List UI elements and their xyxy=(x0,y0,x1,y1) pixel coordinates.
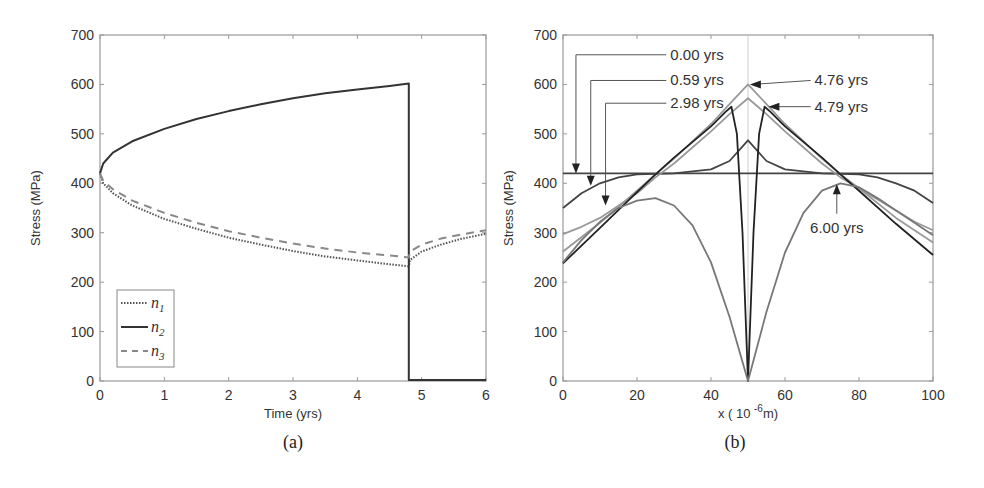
y-tick-label: 100 xyxy=(534,324,558,340)
annotation-label: 2.98 yrs xyxy=(670,94,723,111)
x-tick-label: 1 xyxy=(160,387,168,403)
legend-box xyxy=(117,290,174,367)
y-axis-title-a: Stress (MPa) xyxy=(28,170,43,246)
x-tick-label: 100 xyxy=(921,387,945,403)
chart-b: 0204060801000100200300400500600700 0.00 … xyxy=(501,27,945,453)
x-tick-label: 0 xyxy=(559,387,567,403)
x-axis-title-b: x ( 10 -6m) xyxy=(718,403,778,421)
y-tick-label: 200 xyxy=(534,274,558,290)
y-tick-label: 500 xyxy=(534,126,558,142)
y-tick-label: 400 xyxy=(534,175,558,191)
x-tick-label: 60 xyxy=(777,387,793,403)
x-axis-title-a: Time (yrs) xyxy=(264,406,322,421)
y-tick-label: 300 xyxy=(71,225,95,241)
y-tick-label: 100 xyxy=(71,324,95,340)
y-tick-label: 200 xyxy=(71,274,95,290)
axis-ticks-b: 0204060801000100200300400500600700 xyxy=(534,27,945,403)
x-tick-label: 5 xyxy=(418,387,426,403)
series-line xyxy=(100,173,486,257)
x-tick-label: 2 xyxy=(225,387,233,403)
annotation-label: 6.00 yrs xyxy=(810,219,863,236)
y-tick-label: 700 xyxy=(534,27,558,43)
y-axis-title-b: Stress (MPa) xyxy=(501,170,516,246)
y-tick-label: 400 xyxy=(71,175,95,191)
arrow-head-icon xyxy=(602,196,610,206)
y-tick-label: 500 xyxy=(71,126,95,142)
annotation-label: 0.00 yrs xyxy=(670,46,723,63)
x-tick-label: 3 xyxy=(289,387,297,403)
annotation-leader xyxy=(591,80,667,183)
caption-b: (b) xyxy=(725,432,746,453)
x-tick-label: 40 xyxy=(703,387,719,403)
series-line xyxy=(100,173,486,266)
y-tick-label: 600 xyxy=(71,76,95,92)
annotation-leader xyxy=(606,103,667,203)
arrow-head-icon xyxy=(587,176,595,186)
y-tick-label: 0 xyxy=(549,373,557,389)
x-tick-label: 6 xyxy=(482,387,490,403)
x-tick-label: 20 xyxy=(629,387,645,403)
annotation-leader xyxy=(576,55,666,172)
annotation-label: 4.76 yrs xyxy=(815,71,868,88)
y-tick-label: 600 xyxy=(534,76,558,92)
x-tick-label: 4 xyxy=(353,387,361,403)
legend-a: n1n2n3 xyxy=(117,290,174,367)
arrow-head-icon xyxy=(768,103,779,111)
figure: 01234560100200300400500600700 n1n2n3 Str… xyxy=(0,0,984,488)
series-group-b xyxy=(563,35,933,381)
chart-a: 01234560100200300400500600700 n1n2n3 Str… xyxy=(28,27,490,453)
caption-a: (a) xyxy=(283,432,303,453)
annotation-label: 4.79 yrs xyxy=(815,98,868,115)
y-tick-label: 700 xyxy=(71,27,95,43)
y-tick-label: 300 xyxy=(534,225,558,241)
y-tick-label: 0 xyxy=(86,373,94,389)
arrow-head-icon xyxy=(572,163,580,173)
x-tick-label: 0 xyxy=(96,387,104,403)
x-tick-label: 80 xyxy=(851,387,867,403)
annotation-label: 0.59 yrs xyxy=(670,71,723,88)
